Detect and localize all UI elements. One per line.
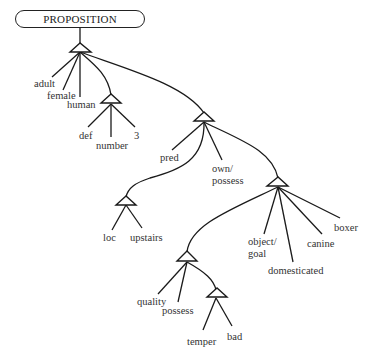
edge-n1-n2 <box>80 52 111 95</box>
edge-n4-loc <box>112 205 126 230</box>
root-label: PROPOSITION <box>43 13 117 25</box>
edge-n3-own <box>204 122 222 160</box>
leaf-possess: possess <box>162 305 194 316</box>
edge-n4-upstairs <box>126 205 142 228</box>
proposition-tree-diagram: PROPOSITION adult female human def numbe… <box>0 0 371 362</box>
leaf-pred: pred <box>160 152 179 163</box>
leaf-3: 3 <box>134 130 139 141</box>
edge-n5-boxer <box>278 187 340 218</box>
edge-n6-quality <box>158 262 187 294</box>
edge-n1-n3 <box>80 52 204 113</box>
edge-n6-possess <box>178 262 187 302</box>
edge-n5-canine <box>278 187 322 234</box>
edge-n6-n7 <box>187 262 216 290</box>
leaf-temper: temper <box>187 336 216 347</box>
leaf-adult: adult <box>34 78 55 89</box>
leaf-number: number <box>96 140 128 151</box>
leaf-upstairs: upstairs <box>130 232 163 243</box>
leaf-human: human <box>67 99 96 110</box>
edge-n1-female <box>63 52 80 90</box>
leaf-object-line1: object/ <box>248 236 277 247</box>
root-node-proposition: PROPOSITION <box>15 10 145 28</box>
edge-n1-adult <box>52 52 80 77</box>
leaf-canine: canine <box>307 238 334 249</box>
leaf-object-line2: goal <box>248 248 266 259</box>
edge-n5-object <box>264 187 278 234</box>
leaf-domesticated: domesticated <box>268 265 323 276</box>
edge-n5-domesticated <box>278 187 293 262</box>
leaf-own-line2: possess <box>212 175 244 186</box>
node-triangle-n4 <box>116 196 136 205</box>
node-triangle-n6 <box>177 251 197 261</box>
leaf-def: def <box>79 130 92 141</box>
node-triangle-n5 <box>267 177 288 186</box>
node-triangle-n1 <box>70 43 91 52</box>
edge-n2-3 <box>111 104 135 127</box>
leaf-bad: bad <box>227 331 242 342</box>
node-triangle-n7 <box>207 288 227 297</box>
node-triangle-n3 <box>194 112 214 121</box>
edge-n7-bad <box>216 298 232 326</box>
leaf-boxer: boxer <box>334 222 358 233</box>
node-triangle-n2 <box>101 94 121 103</box>
leaf-loc: loc <box>103 232 116 243</box>
edge-n7-temper <box>203 298 216 330</box>
edge-n3-pred <box>172 122 204 150</box>
leaf-own-line1: own/ <box>212 163 233 174</box>
